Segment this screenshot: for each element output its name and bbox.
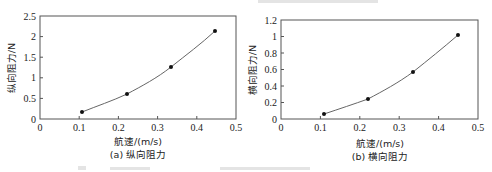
cropped-footer-fragment (110, 167, 150, 170)
y-tick-labels-b: 0 0.2 0.4 0.6 0.8 1 1.2 (265, 15, 278, 125)
x-tick-label: 0.3 (393, 122, 406, 133)
x-axis-label-a: 航速/(m/s) (114, 136, 162, 147)
data-curve-a (82, 31, 215, 112)
cropped-footer-fragment (220, 167, 310, 170)
x-tick-labels-a: 0 0.1 0.2 0.3 0.4 0.5 (38, 122, 243, 133)
figure-canvas: 0 0.5 1 1.5 2 2.5 0 0.1 0.2 0.3 0.4 0.5 … (0, 0, 492, 172)
y-axis-label-b: 横向阻力/N (247, 45, 258, 95)
data-curve-b (324, 35, 458, 114)
y-tick-label: 1 (31, 72, 36, 83)
y-tick-label: 0.6 (265, 64, 278, 75)
y-tick-label: 2 (31, 31, 36, 42)
chart-panel-b: 0 0.2 0.4 0.6 0.8 1 1.2 0 0.1 0.2 0.3 0.… (247, 15, 484, 163)
caption-b: (b) 横向阻力 (352, 151, 408, 162)
plot-frame-b (281, 20, 478, 119)
data-points-b (322, 33, 460, 116)
x-tick-label: 0.2 (112, 122, 125, 133)
data-point (411, 70, 415, 74)
caption-a: (a) 纵向阻力 (110, 149, 166, 160)
y-tick-label: 0.2 (265, 97, 278, 108)
x-tick-label: 0.5 (472, 122, 485, 133)
y-tick-labels-a: 0 0.5 1 1.5 2 2.5 (24, 11, 37, 125)
plot-frame-a (40, 16, 236, 119)
y-tick-label: 0 (272, 114, 277, 125)
data-point (213, 29, 217, 33)
y-tick-label: 2.5 (24, 11, 37, 22)
y-tick-label: 1.2 (265, 15, 278, 26)
x-axis-label-b: 航速/(m/s) (356, 138, 404, 149)
y-tick-label: 1 (272, 31, 277, 42)
x-tick-label: 0 (279, 122, 284, 133)
data-point (80, 110, 84, 114)
x-tick-labels-b: 0 0.1 0.2 0.3 0.4 0.5 (279, 122, 485, 133)
x-tick-label: 0.5 (230, 122, 243, 133)
cropped-header-fragment (258, 0, 378, 3)
x-tick-label: 0 (38, 122, 43, 133)
x-tick-label: 0.4 (191, 122, 204, 133)
data-point (456, 33, 460, 37)
data-point (366, 97, 370, 101)
y-tick-label: 0.5 (24, 93, 37, 104)
data-point (125, 92, 129, 96)
data-point (169, 65, 173, 69)
y-tick-label: 1.5 (24, 52, 37, 63)
x-tick-label: 0.2 (354, 122, 367, 133)
x-tick-label: 0.1 (73, 122, 86, 133)
data-point (322, 112, 326, 116)
x-tick-label: 0.1 (314, 122, 327, 133)
cropped-footer-fragment (78, 166, 86, 170)
chart-panel-a: 0 0.5 1 1.5 2 2.5 0 0.1 0.2 0.3 0.4 0.5 … (6, 11, 242, 161)
y-tick-label: 0.8 (265, 48, 278, 59)
y-tick-label: 0 (31, 114, 36, 125)
x-tick-label: 0.4 (432, 122, 445, 133)
x-tick-label: 0.3 (151, 122, 164, 133)
data-points-a (80, 29, 217, 114)
y-tick-label: 0.4 (265, 81, 278, 92)
y-axis-label-a: 纵向阻力/N (6, 43, 17, 93)
